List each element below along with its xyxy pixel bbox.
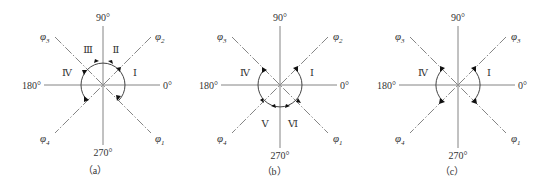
phase-label-upper-left: φ3	[217, 30, 227, 45]
angle-label-180: 180°	[199, 80, 218, 91]
phase-label-lower-right: φ1	[155, 132, 165, 147]
phase-label-lower-right: φ1	[333, 132, 343, 147]
region-label-VI: Ⅵ	[287, 118, 298, 129]
region-label-I: Ⅰ	[487, 67, 491, 78]
region-label-I: Ⅰ	[310, 67, 314, 78]
angle-label-90: 90°	[96, 12, 110, 23]
angle-label-0: 0°	[163, 80, 172, 91]
phase-angle-diagram-figure: 90° 270° 180° 0° φ3 φ2 φ4 φ1 Ⅰ Ⅱ Ⅲ Ⅳ （a）…	[0, 0, 545, 189]
panel-caption-b: （b）	[262, 166, 287, 177]
arrow-icon	[271, 104, 276, 108]
region-label-V: Ⅴ	[260, 118, 269, 129]
arrow-icon	[94, 59, 99, 63]
angle-label-0: 0°	[340, 80, 349, 91]
phase-label-upper-left: φ3	[40, 30, 50, 45]
panel-caption-a: （a）	[83, 165, 107, 176]
phase-label-upper-right: φ2	[155, 30, 165, 45]
angle-label-0: 0°	[518, 80, 527, 91]
arrow-icon	[262, 67, 267, 73]
phase-label-upper-right: φ2	[333, 30, 343, 45]
phase-label-upper-right: φ3	[511, 30, 521, 45]
angle-label-180: 180°	[377, 80, 396, 91]
phase-label-lower-left: φ4	[217, 132, 227, 147]
region-label-II: Ⅱ	[113, 44, 120, 55]
angle-label-270: 270°	[94, 147, 113, 158]
panel-a: 90° 270° 180° 0° φ3 φ2 φ4 φ1 Ⅰ Ⅱ Ⅲ Ⅳ （a）	[22, 12, 172, 176]
phase-label-lower-left: φ4	[40, 132, 50, 147]
angle-label-270: 270°	[449, 150, 468, 161]
figure-canvas: 90° 270° 180° 0° φ3 φ2 φ4 φ1 Ⅰ Ⅱ Ⅲ Ⅳ （a）…	[0, 0, 545, 189]
angle-label-90: 90°	[451, 12, 465, 23]
region-label-III: Ⅲ	[83, 44, 93, 55]
angle-label-270: 270°	[271, 150, 290, 161]
region-label-IV: Ⅳ	[62, 67, 73, 78]
arrow-icon	[82, 70, 87, 75]
region-label-I: Ⅰ	[133, 67, 137, 78]
phase-label-lower-left: φ4	[395, 132, 405, 147]
panel-b: 90° 270° 180° 0° φ3 φ2 φ4 φ1 Ⅰ Ⅳ Ⅴ Ⅵ （b）	[199, 12, 349, 177]
region-label-IV: Ⅳ	[240, 67, 251, 78]
angle-label-180: 180°	[22, 80, 41, 91]
angle-label-90: 90°	[273, 12, 287, 23]
phase-label-upper-left: φ3	[395, 30, 405, 45]
phase-label-lower-right: φ1	[511, 132, 521, 147]
panel-caption-c: （c）	[440, 166, 464, 177]
panel-c: 90° 270° 180° 0° φ3 φ3 φ4 φ1 Ⅰ Ⅳ （c）	[377, 12, 527, 177]
region-label-IV: Ⅳ	[418, 67, 429, 78]
